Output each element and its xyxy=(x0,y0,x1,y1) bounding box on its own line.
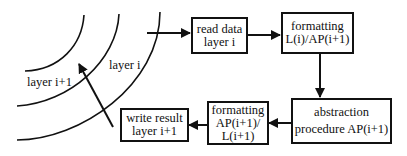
box-fmt2-line1: formatting xyxy=(212,104,265,117)
box-abs-line1: abstraction xyxy=(314,106,369,119)
box-fmt2-line3: L(i+1) xyxy=(222,130,255,143)
box-abstraction: abstraction procedure AP(i+1) xyxy=(291,98,392,144)
box-abs-line2: procedure AP(i+1) xyxy=(295,123,388,136)
box-write-line2: layer i+1 xyxy=(132,125,177,138)
box-read-data: read data layer i xyxy=(191,17,248,54)
box-fmt1-line2: L(i)/AP(i+1) xyxy=(286,33,350,46)
box-read-line1: read data xyxy=(197,23,242,36)
label-layer-i: layer i xyxy=(109,59,141,72)
label-layer-i-plus-1: layer i+1 xyxy=(27,76,72,89)
layer-arc-inner xyxy=(25,15,84,71)
layer-arc-middle xyxy=(17,14,119,106)
box-formatting-l-ap: formatting L(i)/AP(i+1) xyxy=(281,12,354,54)
arrow-write-to-layer xyxy=(79,64,113,127)
box-formatting-ap-l: formatting AP(i+1)/ L(i+1) xyxy=(207,101,269,145)
box-write-result: write result layer i+1 xyxy=(120,108,189,142)
box-fmt2-line2: AP(i+1)/ xyxy=(216,117,261,130)
box-read-line2: layer i xyxy=(204,36,236,49)
